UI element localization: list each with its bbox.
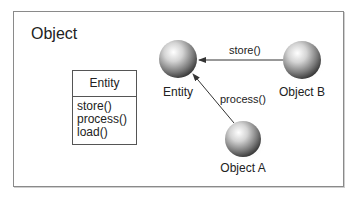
node-label-object-b: Object B: [279, 85, 325, 99]
object-b-sphere-icon: [283, 41, 321, 79]
node-label-entity: Entity: [163, 85, 193, 99]
edge-label-process: process(): [220, 93, 266, 105]
object-graph: [0, 0, 352, 200]
entity-sphere-icon: [159, 40, 197, 78]
object-a-sphere-icon: [225, 121, 261, 157]
edge-label-store: store(): [229, 44, 261, 56]
node-label-object-a: Object A: [220, 161, 265, 175]
